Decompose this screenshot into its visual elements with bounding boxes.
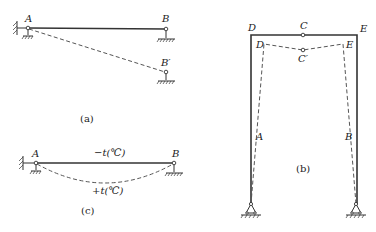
beam-ab bbox=[28, 28, 166, 29]
deflected-curve bbox=[37, 164, 173, 183]
label-b: B bbox=[344, 131, 352, 142]
hinge-c-prime bbox=[301, 48, 305, 52]
label-b: B bbox=[161, 13, 169, 24]
pin-support-a-icon bbox=[241, 204, 261, 218]
label-d-prime: D bbox=[255, 39, 264, 50]
label-a: A bbox=[24, 13, 32, 24]
caption-c: (c) bbox=[81, 205, 95, 216]
label-c: C bbox=[300, 20, 308, 31]
hinge-a bbox=[249, 202, 252, 205]
caption-b: (b) bbox=[296, 163, 310, 174]
hinge-b bbox=[172, 161, 176, 165]
label-top-temperature: −t(℃) bbox=[94, 147, 125, 158]
label-a: A bbox=[31, 148, 39, 159]
label-c-prime: C′ bbox=[298, 53, 309, 64]
figure-a: A B B′ (a) bbox=[13, 13, 175, 124]
pin-support-b-icon bbox=[346, 204, 366, 218]
figure-c: A B −t(℃) +t(℃) (c) bbox=[19, 147, 183, 216]
hinge-b bbox=[164, 27, 168, 31]
hinge-b bbox=[354, 202, 357, 205]
deformed-frame bbox=[251, 44, 356, 204]
label-d: D bbox=[247, 22, 256, 33]
displaced-beam bbox=[29, 29, 165, 72]
label-e: E bbox=[359, 23, 368, 34]
label-b: B bbox=[171, 148, 179, 159]
structural-diagrams: A B B′ (a) bbox=[0, 0, 376, 232]
label-b-prime: B′ bbox=[160, 57, 171, 68]
caption-a: (a) bbox=[80, 113, 94, 124]
figure-b: D C E D E C′ A B (b) bbox=[241, 20, 368, 218]
label-bottom-temperature: +t(℃) bbox=[92, 185, 123, 196]
label-a: A bbox=[255, 131, 263, 142]
label-e-prime: E bbox=[345, 39, 354, 50]
hinge-c bbox=[301, 33, 305, 37]
hinge-b-prime bbox=[164, 70, 168, 74]
